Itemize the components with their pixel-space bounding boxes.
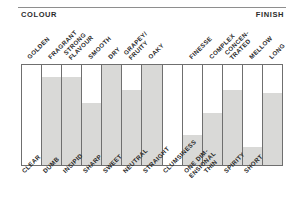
chart-column xyxy=(62,65,82,165)
chart-column xyxy=(243,65,263,165)
chart-plot-area xyxy=(21,64,283,166)
chart-column xyxy=(82,65,102,165)
top-divider-rule xyxy=(18,7,286,8)
top-tick-label: OAKY xyxy=(148,43,166,61)
bar-fill xyxy=(102,65,121,165)
chart-column xyxy=(102,65,122,165)
wine-attribute-scale-figure: COLOUR FINISH GOLDENFRAGRANTSTRONGFLAVOU… xyxy=(0,0,304,214)
bar-fill xyxy=(42,77,61,165)
axis-endpoint-label-finish: FINISH xyxy=(256,10,284,19)
top-tick-label: DRY xyxy=(107,47,121,61)
axis-endpoint-label-colour: COLOUR xyxy=(21,10,57,19)
top-tick-label: LONG xyxy=(269,43,287,61)
chart-column xyxy=(263,65,282,165)
chart-column xyxy=(42,65,62,165)
chart-column xyxy=(22,65,42,165)
bar-fill xyxy=(263,93,282,165)
